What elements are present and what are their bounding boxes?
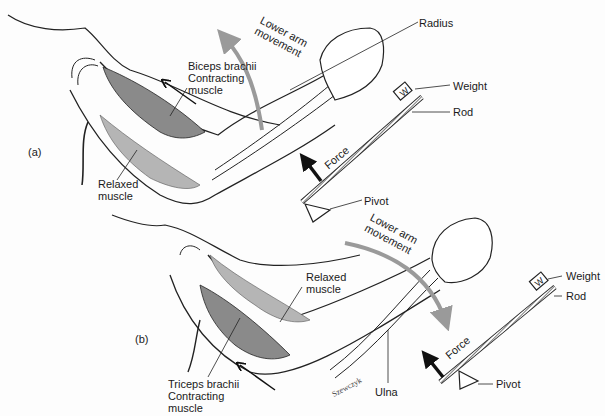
- panel-b-contraction-arrow: [240, 365, 275, 390]
- panel-b-relaxed-label: Relaxed muscle: [306, 271, 346, 295]
- muscle-state: Contracting: [188, 72, 256, 84]
- panel-b-weight-label: Weight: [566, 270, 600, 282]
- panel-b-pivot-triangle: [459, 371, 478, 389]
- panel-b-pivot-label: Pivot: [496, 378, 520, 390]
- panel-b-tag: (b): [135, 333, 148, 345]
- panel-a-relaxed-label: Relaxed muscle: [98, 178, 138, 202]
- panel-b-rod-label: Rod: [566, 290, 586, 302]
- panel-a-force-arrow: [305, 160, 321, 181]
- panel-a-arm: [8, 15, 384, 204]
- panel-a-radius-label: Radius: [419, 17, 453, 29]
- lever-diagram: (a) Lower arm movement Biceps brachii Co…: [0, 0, 605, 416]
- panel-b-triceps-label: Triceps brachii Contracting muscle: [168, 378, 239, 414]
- panel-b-lever: [427, 272, 562, 389]
- relaxed-word: Relaxed: [306, 271, 346, 283]
- panel-a-pivot-triangle: [305, 204, 330, 222]
- muscle-state: Contracting: [168, 390, 239, 402]
- panel-b-ulna-label: Ulna: [375, 386, 398, 398]
- panel-a-pivot-label: Pivot: [364, 195, 388, 207]
- panel-a-tag: (a): [28, 146, 41, 158]
- muscle-word: muscle: [168, 402, 239, 414]
- muscle-word: muscle: [98, 190, 138, 202]
- relaxed-word: Relaxed: [98, 178, 138, 190]
- panel-a-biceps-label: Biceps brachii Contracting muscle: [188, 60, 256, 96]
- diagram-artwork: [0, 0, 605, 416]
- panel-a-weight-label: Weight: [453, 80, 487, 92]
- panel-b-force-arrow: [427, 357, 443, 377]
- muscle-name: Biceps brachii: [188, 60, 256, 72]
- muscle-name: Triceps brachii: [168, 378, 239, 390]
- panel-b-movement-arrow: [345, 243, 445, 320]
- panel-a-rod-label: Rod: [453, 106, 473, 118]
- muscle-word: muscle: [306, 283, 346, 295]
- muscle-word: muscle: [188, 84, 256, 96]
